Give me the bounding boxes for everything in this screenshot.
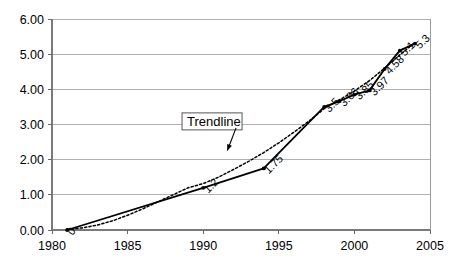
y-axis-tick-label: 0.00 [20,224,44,238]
y-axis-tick-label: 2.00 [20,153,44,167]
x-axis-tick-label: 2005 [416,239,444,253]
line-chart: 0.001.002.003.004.005.006.00 19801985199… [0,0,460,272]
x-axis-tick-label: 1995 [265,239,293,253]
x-axis-tick-label: 1980 [38,239,66,253]
chart-container: 0.001.002.003.004.005.006.00 19801985199… [0,0,460,272]
x-axis-tick-label: 2000 [340,239,368,253]
y-axis-tick-label: 6.00 [20,13,44,27]
y-axis-tick-label: 4.00 [20,83,44,97]
y-axis-tick-label: 3.00 [20,118,44,132]
x-axis-tick-label: 1985 [114,239,142,253]
y-axis-tick-label: 5.00 [20,48,44,62]
annotation-label: Trendline [187,114,241,129]
x-axis-tick-label: 1990 [189,239,217,253]
y-axis-tick-label: 1.00 [20,188,44,202]
